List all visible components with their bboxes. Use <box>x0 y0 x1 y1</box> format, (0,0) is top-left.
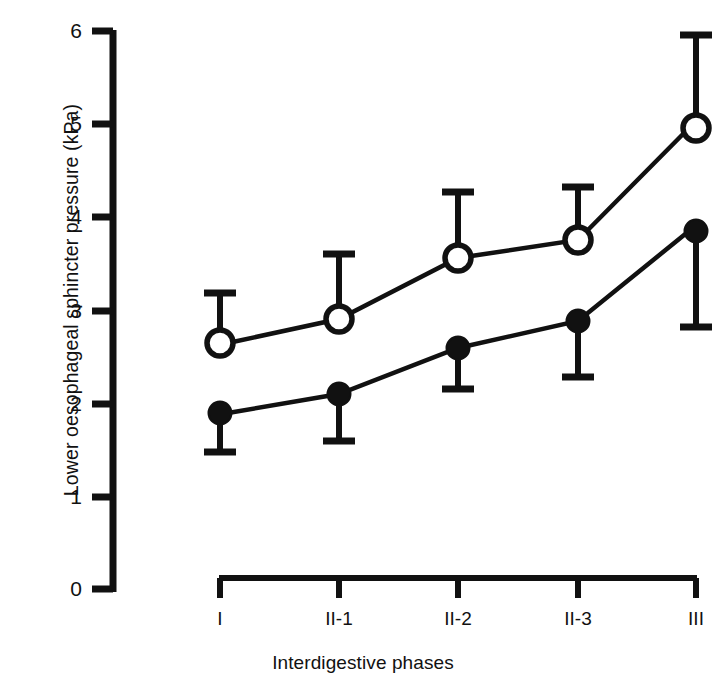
x-tick-label-ii-1: II-1 <box>294 608 384 630</box>
y-tick-label-2: 2 <box>42 392 82 416</box>
plot-area <box>0 0 726 694</box>
x-tick-label-iii: III <box>651 608 726 630</box>
y-tick-label-6: 6 <box>42 19 82 43</box>
x-tick-label-i: I <box>175 608 265 630</box>
x-tick-label-ii-2: II-2 <box>413 608 503 630</box>
x-axis-title: Interdigestive phases <box>0 652 726 674</box>
y-tick-label-3: 3 <box>42 299 82 323</box>
y-tick-label-1: 1 <box>42 485 82 509</box>
y-tick-label-0: 0 <box>42 577 82 601</box>
open-series-error-bars <box>204 35 712 343</box>
figure-panel: Lower oesophageal sphincter pressure (kP… <box>0 0 726 694</box>
x-tick-label-ii-3: II-3 <box>533 608 623 630</box>
y-tick-label-5: 5 <box>42 112 82 136</box>
y-tick-label-4: 4 <box>42 205 82 229</box>
